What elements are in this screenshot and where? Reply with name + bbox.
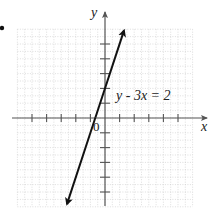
line-segment-lower <box>67 117 95 204</box>
bullet-marker <box>0 26 4 30</box>
origin-label: 0 <box>93 119 100 134</box>
y-axis-label: y <box>89 5 98 20</box>
equation-label: y - 3x = 2 <box>114 88 171 103</box>
x-axis-label: x <box>200 119 208 134</box>
coordinate-graph: y x 0 y - 3x = 2 <box>0 0 218 209</box>
